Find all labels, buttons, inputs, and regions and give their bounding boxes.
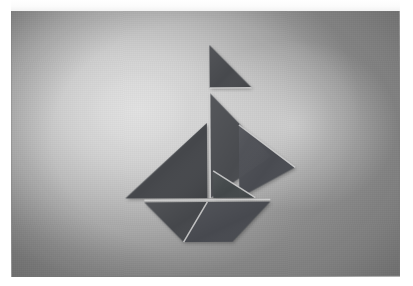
sheen-mainsail-left-large-triangle xyxy=(125,123,207,198)
scan-margin-top xyxy=(0,0,413,11)
scan-margin-right xyxy=(400,0,413,286)
seam-mast-vertical-seam xyxy=(210,93,211,198)
photograph-content xyxy=(10,8,401,278)
scan-margin-bottom xyxy=(0,277,413,286)
screenshot-canvas xyxy=(0,0,413,286)
photograph xyxy=(10,8,401,278)
tangram-sailboat-figure xyxy=(10,8,401,278)
scan-margin-left xyxy=(0,0,11,286)
seam-deck-horizontal-seam xyxy=(144,200,270,201)
sheen-flag-pennant-triangle xyxy=(209,45,251,88)
